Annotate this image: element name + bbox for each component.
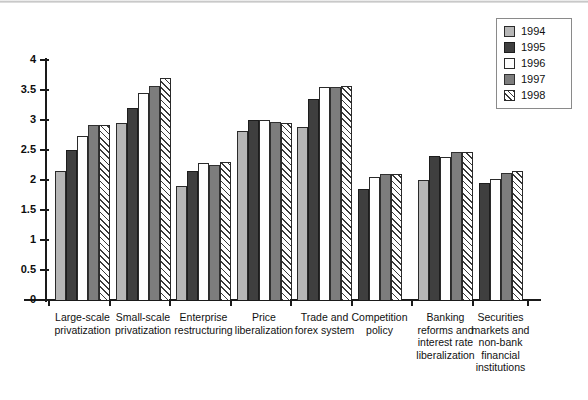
category-label-line: Securities <box>468 311 534 324</box>
bar-1997 <box>88 125 99 300</box>
bar-1994 <box>418 180 429 300</box>
x-axis-category-label: Large-scaleprivatization <box>50 311 116 336</box>
x-axis-group-tick <box>411 299 413 306</box>
category-label-line: privatization <box>110 324 176 337</box>
plot-area <box>47 60 539 300</box>
bar-1995 <box>479 183 490 300</box>
x-axis-group-tick <box>169 299 171 306</box>
bar-1994 <box>116 123 127 300</box>
grouped-bar-chart: 00.511.522.533.54 Large-scaleprivatizati… <box>0 0 588 400</box>
x-axis-category-label: Enterpriserestructuring <box>171 311 237 336</box>
legend-swatch-icon <box>504 90 515 101</box>
bar-1998 <box>160 78 171 300</box>
legend-label: 1995 <box>521 42 545 53</box>
x-axis-group-tick <box>472 299 474 306</box>
bar-1996 <box>138 93 149 300</box>
y-axis-tick-label: 0.5 <box>2 264 36 275</box>
category-label-line: policy <box>347 324 413 337</box>
bar-1995 <box>429 156 440 300</box>
y-axis-tick-label: 2 <box>2 174 36 185</box>
y-axis-tick-label: 3 <box>2 114 36 125</box>
legend-item-1997[interactable]: 1997 <box>504 72 565 87</box>
legend-item-1995[interactable]: 1995 <box>504 40 565 55</box>
x-axis-group-tick <box>48 299 50 306</box>
bar-group-bars <box>116 60 171 300</box>
category-label-line: institutions <box>468 361 534 374</box>
y-axis-tick-label: 4 <box>2 54 36 65</box>
bar-1996 <box>77 136 88 300</box>
x-axis-group-tick <box>109 299 111 306</box>
bar-group-bars <box>237 60 292 300</box>
bar-1995 <box>187 171 198 300</box>
category-label-line: Large-scale <box>50 311 116 324</box>
bar-1998 <box>391 174 402 300</box>
legend: 19941995199619971998 <box>496 18 572 109</box>
legend-swatch-icon <box>504 74 515 85</box>
x-axis-category-label: Securitiesmarkets andnon-bankfinancialin… <box>468 311 534 374</box>
bar-1997 <box>380 174 391 300</box>
x-axis-group-tick <box>290 299 292 306</box>
x-axis-group-tick <box>527 299 529 306</box>
bar-1996 <box>440 157 451 300</box>
bar-1995 <box>308 99 319 300</box>
bar-1996 <box>369 177 380 300</box>
bar-1998 <box>220 162 231 300</box>
bar-1998 <box>281 123 292 300</box>
category-label-line: Enterprise <box>171 311 237 324</box>
bar-1996 <box>490 179 501 300</box>
legend-swatch-icon <box>504 42 515 53</box>
bar-1994 <box>237 131 248 300</box>
x-axis-group-tick <box>230 299 232 306</box>
y-axis-tick-label: 1.5 <box>2 204 36 215</box>
legend-item-1996[interactable]: 1996 <box>504 56 565 71</box>
category-label-line: liberalization <box>231 324 297 337</box>
legend-swatch-icon <box>504 26 515 37</box>
bar-1997 <box>330 87 341 300</box>
category-label-line: financial <box>468 349 534 362</box>
category-label-line: Small-scale <box>110 311 176 324</box>
category-label-line: Competition <box>347 311 413 324</box>
bar-group-bars <box>297 60 352 300</box>
x-axis-category-label: Small-scaleprivatization <box>110 311 176 336</box>
bar-1995 <box>127 108 138 300</box>
legend-swatch-icon <box>504 58 515 69</box>
bar-1997 <box>501 173 512 300</box>
x-axis-category-label: Competitionpolicy <box>347 311 413 336</box>
legend-label: 1997 <box>521 74 545 85</box>
x-axis-category-label: Priceliberalization <box>231 311 297 336</box>
bar-1996 <box>319 87 330 300</box>
bar-1994 <box>176 186 187 300</box>
legend-item-1994[interactable]: 1994 <box>504 24 565 39</box>
category-label-line: Price <box>231 311 297 324</box>
category-label-line: privatization <box>50 324 116 337</box>
bar-group-bars <box>55 60 110 300</box>
legend-item-1998[interactable]: 1998 <box>504 88 565 103</box>
bar-1998 <box>341 86 352 300</box>
y-axis-tick-label: 1 <box>2 234 36 245</box>
category-label-line: non-bank <box>468 336 534 349</box>
bar-group-bars <box>418 60 473 300</box>
bar-1994 <box>297 127 308 300</box>
bar-1994 <box>55 171 66 300</box>
x-axis-group-tick <box>351 299 353 306</box>
bar-1998 <box>99 125 110 300</box>
bar-1998 <box>512 171 523 300</box>
bar-1995 <box>358 189 369 300</box>
legend-label: 1994 <box>521 26 545 37</box>
bar-1998 <box>462 152 473 300</box>
y-axis-tick-label: 3.5 <box>2 84 36 95</box>
bar-group-bars <box>358 60 402 300</box>
bar-1996 <box>259 120 270 300</box>
legend-label: 1996 <box>521 58 545 69</box>
y-axis-tick-label: 2.5 <box>2 144 36 155</box>
legend-label: 1998 <box>521 90 545 101</box>
bar-1997 <box>149 86 160 300</box>
bar-1997 <box>270 122 281 300</box>
category-label-line: markets and <box>468 324 534 337</box>
category-label-line: restructuring <box>171 324 237 337</box>
bar-1996 <box>198 163 209 300</box>
bar-1995 <box>248 120 259 300</box>
bar-1997 <box>209 165 220 300</box>
bar-group-bars <box>176 60 231 300</box>
bar-1995 <box>66 150 77 300</box>
